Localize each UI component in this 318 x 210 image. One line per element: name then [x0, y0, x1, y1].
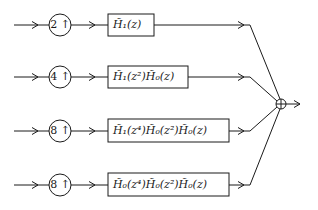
upsampler-1-label: 2 ↑ [49, 18, 71, 32]
upsampler-4-label: 8 ↑ [49, 178, 71, 192]
upsampler-2-label: 4 ↑ [49, 70, 71, 84]
filter-4-label: H̃₀(z⁴)H̃₀(z²)H̃₀(z) [113, 178, 207, 192]
filter-1-label: H̃₁(z) [113, 18, 141, 32]
filter-3-label: H̃₁(z⁴)H̃₀(z²)H̃₀(z) [113, 124, 207, 138]
upsampler-3-label: 8 ↑ [49, 124, 71, 138]
filter-2-label: H̃₁(z²)H̃₀(z) [113, 70, 174, 84]
summing-junction [276, 99, 300, 109]
